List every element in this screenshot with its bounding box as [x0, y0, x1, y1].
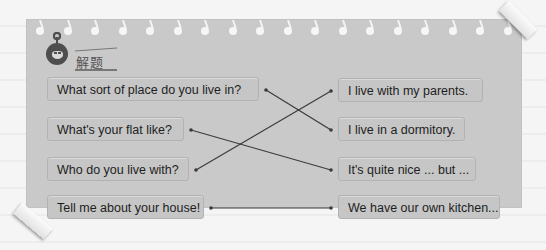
- answer-box[interactable]: It's quite nice ... but ...: [338, 157, 476, 181]
- spiral-ring: [393, 20, 403, 36]
- mascot-eye: [58, 52, 61, 54]
- spiral-ring: [283, 20, 293, 36]
- spiral-ring: [365, 20, 375, 36]
- answer-box[interactable]: I live in a dormitory.: [338, 117, 465, 141]
- spiral-ring: [118, 20, 128, 36]
- spiral-ring: [448, 20, 458, 36]
- spiral-ring: [173, 20, 183, 36]
- spiral-ring: [63, 20, 73, 36]
- spiral-ring: [90, 20, 100, 36]
- heading-underline-bottom: [75, 69, 117, 71]
- spiral-ring: [310, 20, 320, 36]
- mascot-eye: [54, 52, 57, 54]
- spiral-ring: [200, 20, 210, 36]
- answer-box[interactable]: We have our own kitchen...: [338, 195, 500, 219]
- spiral-ring: [228, 20, 238, 36]
- mascot-icon: [46, 43, 68, 65]
- spiral-ring: [475, 20, 485, 36]
- spiral-ring: [420, 20, 430, 36]
- spiral-ring: [255, 20, 265, 36]
- question-box[interactable]: What sort of place do you live in?: [47, 77, 259, 101]
- spiral-ring: [35, 20, 45, 36]
- spiral-binding: [27, 20, 521, 36]
- spiral-ring: [338, 20, 348, 36]
- question-box[interactable]: Who do you live with?: [47, 157, 189, 181]
- answer-box[interactable]: I live with my parents.: [338, 78, 483, 102]
- spiral-ring: [145, 20, 155, 36]
- question-box[interactable]: Tell me about your house!: [47, 195, 204, 219]
- question-box[interactable]: What's your flat like?: [47, 117, 184, 141]
